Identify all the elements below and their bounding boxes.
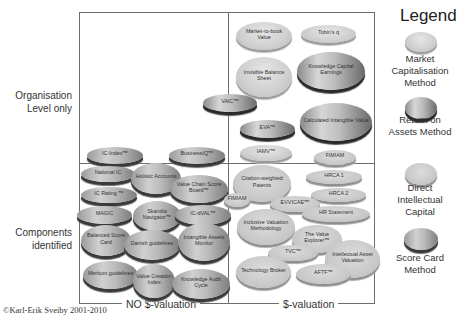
method-disc-label: HR Statement: [316, 209, 356, 215]
method-disc-label: VAIC™: [218, 98, 242, 104]
method-disc-label: Citation-weighted Patents: [233, 175, 291, 187]
method-disc-inclusive-valuation-methodology: Inclusive Valuation Methodology: [237, 209, 295, 245]
legend-title: Legend: [400, 6, 457, 26]
x-axis-label-no-valuation: NO $-valuation: [122, 298, 200, 310]
method-disc-fimiam: FIMIAM: [224, 193, 250, 207]
method-disc-invisible-balance-sheet: Invisible Balance Sheet: [236, 57, 292, 97]
method-disc-label: Danish guidelines: [128, 240, 177, 246]
method-disc-intangible-assets-monitor: Intangible Assets Monitor: [178, 223, 230, 261]
method-disc-label: IC-dVAL™: [187, 210, 218, 216]
legend-label-return-on-assets: Return on Assets Method: [384, 114, 456, 138]
method-disc-label: EVA™: [257, 124, 279, 130]
method-disc-businessiq: BusinessIQ™: [169, 147, 225, 164]
method-disc-label: Value Chain Score Board™: [170, 181, 228, 193]
method-disc-label: Skandia Navigator™: [133, 208, 181, 220]
method-disc-label: HRCA 2: [326, 190, 351, 196]
method-disc-skandia-navigator: Skandia Navigator™: [133, 201, 181, 231]
y-axis-label-components: Components identified: [12, 226, 72, 252]
legend-score-card-icon: [404, 228, 438, 250]
method-disc-label: Meritum guidelines: [85, 270, 136, 276]
method-disc-label: Knowledge Audit Cycle: [172, 276, 230, 288]
method-disc-label: MAGIC: [93, 210, 117, 216]
method-disc-label: EVVICAE™: [278, 199, 313, 205]
method-disc-label: AFTF™: [311, 269, 336, 275]
method-disc-label: HRCA 1: [321, 172, 346, 178]
legend-label-direct-ic: Direct Intellectual Capital: [384, 182, 456, 218]
method-disc-ic-dval: IC-dVAL™: [175, 205, 231, 225]
method-disc-hrca-1: HRCA 1: [306, 170, 362, 184]
method-disc-label: Inclusive Valuation Methodology: [237, 219, 295, 231]
method-disc-meritum-guidelines: Meritum guidelines: [83, 261, 138, 289]
method-disc-label: IC-Index™: [99, 150, 131, 156]
method-disc-ic-index: IC-Index™: [87, 147, 143, 164]
method-disc-label: Holistic Accounts: [133, 173, 180, 179]
method-disc-eva: EVA™: [240, 120, 295, 138]
method-disc-label: FiMIAM: [323, 152, 348, 158]
method-disc-market-to-book-value: Market-to-book Value: [236, 22, 292, 50]
x-axis-label-valuation: $-valuation: [279, 298, 338, 310]
method-disc-label: Market-to-book Value: [236, 28, 292, 40]
method-disc-balanced-score-card: Balanced Score Card: [81, 225, 131, 256]
method-disc-hr-statement: HR Statement: [302, 206, 370, 222]
legend-market-cap-icon: [405, 32, 437, 52]
method-disc-label: Technology Broker: [238, 267, 289, 273]
method-disc-vaic: VAIC™: [203, 94, 257, 112]
copyright-notice: ©Karl-Erik Sveiby 2001-2010: [3, 305, 107, 315]
legend-label-score-card: Score Card Method: [384, 252, 456, 276]
method-disc-value-creation-index: Value Creation Index: [133, 264, 175, 298]
method-disc-aftf: AFTF™: [296, 264, 351, 284]
method-disc-label: Calculated Intangible Value: [300, 117, 371, 123]
method-disc-technology-broker: Technology Broker: [236, 256, 291, 288]
method-disc-label: IC Rating ™: [91, 190, 126, 196]
method-disc-label: FIMIAM: [225, 195, 250, 201]
method-disc-ic-rating: IC Rating ™: [81, 187, 137, 203]
method-disc-label: Tobin's q: [315, 29, 342, 35]
method-disc-magic: MAGIC: [77, 206, 132, 224]
method-disc-label: Value Creation Index: [133, 273, 175, 285]
vertical-divider: [228, 12, 229, 304]
method-disc-label: IAMV™: [254, 148, 279, 154]
method-disc-label: The Value Explorer™: [292, 231, 342, 243]
method-disc-label: Invisible Balance Sheet: [236, 69, 292, 81]
method-disc-label: Intangible Assets Monitor: [178, 234, 230, 246]
method-disc-fimiam: FiMIAM: [314, 150, 356, 165]
method-disc-knowledge-audit-cycle: Knowledge Audit Cycle: [172, 269, 230, 299]
method-disc-iamv: IAMV™: [240, 145, 292, 161]
method-disc-calculated-intangible-value: Calculated Intangible Value: [300, 103, 372, 141]
method-disc-danish-guidelines: Danish guidelines: [124, 230, 180, 260]
method-disc-label: TVC™: [282, 248, 304, 254]
legend-label-market-cap: Market Capitalisation Method: [384, 53, 456, 89]
method-disc-hrca-2: HRCA 2: [311, 188, 366, 202]
method-disc-label: BusinessIQ™: [178, 150, 217, 156]
method-disc-knowledge-capital-earnings: Knowledge Capital Earnings: [297, 52, 365, 90]
method-disc-label: Knowledge Capital Earnings: [297, 63, 365, 75]
method-disc-label: National IC: [92, 169, 125, 175]
method-disc-label: Intellectual Asset Valuation: [325, 251, 380, 263]
method-disc-tobin-s-q: Tobin's q: [301, 25, 356, 43]
method-disc-value-chain-score-board: Value Chain Score Board™: [170, 175, 228, 203]
method-disc-national-ic: National IC: [81, 166, 135, 182]
y-axis-label-organisation: Organisation Level only: [2, 89, 72, 115]
